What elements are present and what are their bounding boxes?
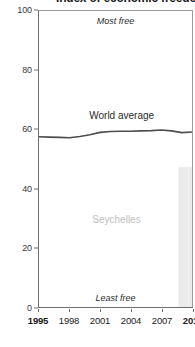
plot-area: Most free Least free World average Seych… — [38, 10, 193, 308]
x-axis-tick-label: 2010 — [183, 315, 195, 326]
x-axis-tick-mark — [100, 309, 101, 312]
annotation-least-free: Least free — [95, 293, 135, 303]
x-axis-tick-mark — [131, 309, 132, 312]
y-axis-tick-label: 100 — [17, 5, 32, 15]
line-series-world-average — [39, 11, 192, 307]
x-axis-tick-mark — [193, 309, 194, 312]
x-axis: 199519982001200420072010 — [38, 309, 193, 333]
y-axis-tick-label: 60 — [22, 124, 32, 134]
annotation-most-free: Most free — [97, 16, 135, 26]
chart-title: Index of economic freedom — [56, 0, 195, 5]
x-axis-tick-label: 1995 — [28, 315, 48, 326]
y-axis-tick-label: 80 — [22, 65, 32, 75]
y-axis-tick-label: 0 — [27, 303, 32, 313]
x-axis-tick-label: 2004 — [121, 315, 141, 326]
annotation-country-seychelles: Seychelles — [92, 214, 140, 225]
x-axis-tick-label: 1998 — [59, 315, 79, 326]
economic-freedom-chart: Index of economic freedom 020406080100 1… — [0, 0, 195, 347]
y-axis-tick-label: 20 — [22, 243, 32, 253]
y-axis: 020406080100 — [0, 10, 38, 308]
x-axis-tick-label: 2001 — [90, 315, 110, 326]
x-axis-tick-mark — [38, 309, 39, 312]
x-axis-tick-mark — [69, 309, 70, 312]
annotation-world-average: World average — [89, 110, 154, 121]
x-axis-tick-mark — [162, 309, 163, 312]
y-axis-tick-label: 40 — [22, 184, 32, 194]
x-axis-tick-label: 2007 — [152, 315, 172, 326]
